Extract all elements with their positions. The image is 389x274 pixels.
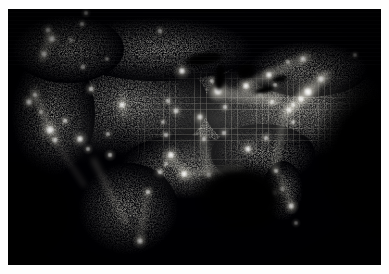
vignette-overlay (8, 9, 381, 265)
satellite-night-image (8, 9, 381, 265)
night-lights-image-viewer: Earth at Night — North America City Ligh… (0, 0, 389, 274)
